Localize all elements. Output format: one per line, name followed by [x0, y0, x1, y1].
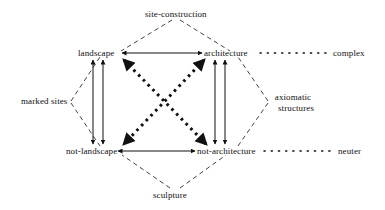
edge-dashed-left-lower [71, 103, 100, 146]
node-label-landscape: landscape [78, 48, 114, 58]
node-label-marked-sites: marked sites [21, 96, 67, 106]
node-label-not-architecture: not-architecture [197, 146, 256, 156]
node-label-not-landscape: not-landscape [66, 146, 117, 156]
edge-diagonal-nw-se [124, 60, 206, 144]
node-label-sculpture: sculpture [153, 190, 187, 200]
node-label-axiomatic-structures: axiomatic structures [272, 92, 314, 113]
edge-dashed-bottom-right [180, 155, 226, 188]
semiotic-square-diagram: site-construction landscape architecture… [0, 0, 385, 210]
edge-dashed-right-upper [238, 57, 268, 101]
axiomatic-line-2: structures [272, 103, 314, 114]
edge-dashed-left-upper [71, 57, 100, 101]
node-label-complex: complex [333, 48, 365, 58]
edge-dashed-top-right [180, 20, 230, 51]
edge-dashed-top-left [121, 20, 172, 51]
edge-dashed-bottom-left [122, 155, 170, 188]
node-label-architecture: architecture [204, 48, 248, 58]
node-label-site-construction: site-construction [145, 9, 207, 19]
edge-dashed-right-lower [238, 103, 268, 146]
edge-diagonal-ne-sw [124, 60, 204, 144]
axiomatic-line-1: axiomatic [275, 92, 311, 102]
node-label-neuter: neuter [338, 146, 361, 156]
